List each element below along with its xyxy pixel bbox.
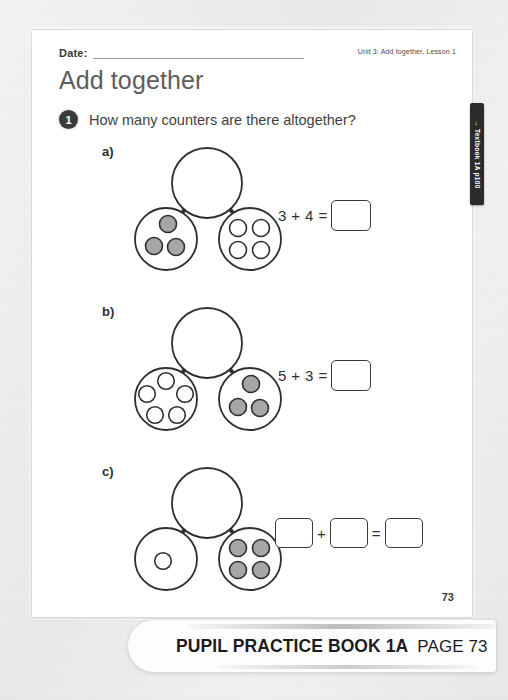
- problem-a: a): [32, 142, 472, 282]
- problem-b-equation: 5 + 3 =: [277, 360, 371, 391]
- problem-a-part-whole-diagram: [130, 142, 285, 272]
- whole-circle-a: [172, 148, 242, 218]
- counter-white: [253, 220, 270, 237]
- counter-white: [155, 553, 172, 570]
- counter-white: [139, 386, 156, 403]
- problem-c-equation: + =: [275, 518, 423, 548]
- equals-sign-b: =: [318, 367, 327, 384]
- part-right-circle-a: [219, 208, 281, 270]
- unit-lesson-label: Unit 3: Add together, Lesson 1: [358, 48, 456, 55]
- addend-right-a: 4: [304, 207, 314, 224]
- problem-a-letter: a): [102, 144, 114, 159]
- whole-circle-b: [172, 308, 242, 378]
- answer-box-a[interactable]: [331, 200, 371, 231]
- part-whole-svg-a: [130, 142, 285, 272]
- answer-box-c[interactable]: [385, 518, 423, 548]
- date-row: Date:: [59, 47, 304, 59]
- problem-c: c) +: [32, 462, 472, 602]
- problem-a-equation: 3 + 4 =: [277, 200, 371, 231]
- page-number: 73: [442, 591, 454, 603]
- problem-b: b): [32, 302, 472, 442]
- counter-grey: [168, 239, 185, 256]
- counter-white: [253, 242, 270, 259]
- footer-shade-top: [188, 624, 496, 629]
- footer-banner: PUPIL PRACTICE BOOK 1A PAGE 73: [128, 620, 496, 672]
- date-write-line[interactable]: [93, 49, 304, 59]
- problem-b-part-whole-diagram: [130, 302, 285, 432]
- part-whole-svg-c: [130, 462, 285, 592]
- textbook-reference-tab[interactable]: → Textbook 1A p100: [470, 103, 484, 205]
- counter-white: [177, 386, 194, 403]
- plus-sign-c: +: [317, 525, 326, 542]
- addend-left-box-c[interactable]: [275, 518, 313, 548]
- counter-white: [169, 407, 186, 424]
- equals-sign-c: =: [372, 525, 381, 542]
- problem-c-part-whole-diagram: [130, 462, 285, 592]
- textbook-reference-label: → Textbook 1A p100: [474, 120, 481, 189]
- counter-grey: [253, 540, 270, 557]
- equals-sign-a: =: [318, 207, 327, 224]
- footer-page-label: PAGE 73: [417, 637, 487, 657]
- addend-right-box-c[interactable]: [330, 518, 368, 548]
- problem-b-letter: b): [102, 304, 114, 319]
- counter-white: [147, 407, 164, 424]
- counter-grey: [253, 562, 270, 579]
- part-whole-svg-b: [130, 302, 285, 432]
- plus-sign-b: +: [291, 367, 300, 384]
- counter-grey: [230, 399, 247, 416]
- addend-left-a: 3: [277, 207, 287, 224]
- counter-white: [158, 373, 175, 390]
- worksheet-page: Date: Unit 3: Add together, Lesson 1 Add…: [31, 29, 473, 618]
- date-label: Date:: [59, 47, 88, 59]
- question-number-badge: 1: [59, 110, 78, 129]
- problem-c-letter: c): [102, 464, 114, 479]
- question-text: How many counters are there altogether?: [89, 112, 356, 128]
- addend-right-b: 3: [304, 367, 314, 384]
- question-row: 1 How many counters are there altogether…: [59, 110, 356, 129]
- counter-grey: [243, 376, 260, 393]
- part-right-circle-c: [219, 528, 281, 590]
- counter-white: [230, 242, 247, 259]
- counter-grey: [230, 540, 247, 557]
- counter-grey: [160, 216, 177, 233]
- whole-circle-c: [172, 468, 242, 538]
- counter-grey: [252, 400, 269, 417]
- counter-white: [230, 220, 247, 237]
- footer-book-title: PUPIL PRACTICE BOOK 1A: [176, 636, 408, 657]
- answer-box-b[interactable]: [331, 360, 371, 391]
- counter-grey: [230, 562, 247, 579]
- plus-sign-a: +: [291, 207, 300, 224]
- addend-left-b: 5: [277, 367, 287, 384]
- counter-grey: [146, 238, 163, 255]
- page-title: Add together: [59, 66, 203, 95]
- footer-shade-bottom: [218, 665, 476, 669]
